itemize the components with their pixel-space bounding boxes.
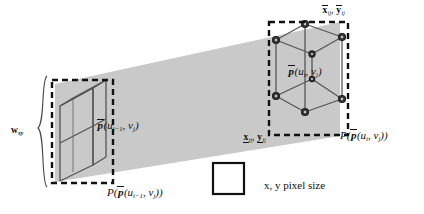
left-P-u-sub: i−1 bbox=[133, 192, 143, 199]
left-P: P bbox=[107, 186, 114, 198]
w-xy-brace bbox=[38, 76, 47, 187]
left-args-close: ) bbox=[135, 119, 139, 131]
upper-bounds-label: xij, yij bbox=[322, 5, 345, 17]
w-xy-sub: xy bbox=[18, 130, 24, 136]
right-args-close: ) bbox=[318, 65, 322, 77]
left-u-sub: i−1 bbox=[113, 125, 123, 132]
y-underbar-sub: ij bbox=[263, 137, 266, 143]
legend-pixel-square bbox=[213, 163, 244, 194]
legend-caption: x, y pixel size bbox=[264, 180, 325, 191]
right-P-close: ) bbox=[384, 129, 388, 141]
right-projection-label: P(p(ui, vj)) bbox=[340, 129, 388, 143]
left-projection-label: P(p(ui−1, vj)) bbox=[107, 186, 163, 200]
right-point-label: p(ui, vj) bbox=[288, 65, 322, 79]
w-xy-base: w bbox=[11, 125, 18, 135]
lower-bounds-label: xij, yij bbox=[243, 133, 266, 144]
perspective-pixel-footprint-diagram bbox=[0, 0, 424, 214]
y-bar-sub: ij bbox=[342, 10, 345, 16]
projection-band bbox=[55, 22, 340, 182]
w-xy-label: wxy bbox=[11, 126, 23, 137]
left-P-close: ) bbox=[159, 186, 163, 198]
right-P: P bbox=[340, 129, 347, 141]
left-point-label: p(ui−1, vj) bbox=[97, 119, 139, 133]
